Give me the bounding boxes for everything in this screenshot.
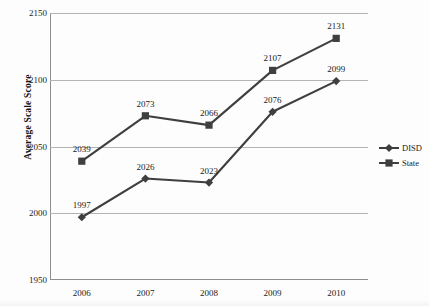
data-point-label: 2107 bbox=[264, 53, 282, 63]
y-tick-label: 2050 bbox=[3, 142, 47, 152]
data-point-label: 2026 bbox=[136, 162, 154, 172]
data-point-label: 2023 bbox=[200, 166, 218, 176]
data-point-label: 2039 bbox=[73, 144, 91, 154]
legend-item-disd[interactable]: DISD bbox=[378, 140, 422, 155]
y-tick-label: 2100 bbox=[3, 75, 47, 85]
x-tick-label: 2010 bbox=[306, 288, 366, 298]
data-point-label: 2131 bbox=[327, 21, 345, 31]
data-point-marker bbox=[333, 35, 340, 42]
y-axis-tick-labels: 21502100205020001950 bbox=[0, 0, 47, 306]
data-point-label: 1997 bbox=[73, 200, 91, 210]
data-point-marker bbox=[205, 122, 212, 129]
legend-label: State bbox=[402, 158, 419, 168]
data-point-label: 2099 bbox=[327, 64, 345, 74]
y-tick-label: 2150 bbox=[3, 8, 47, 18]
series-lines bbox=[50, 13, 368, 280]
chart-legend: DISDState bbox=[378, 140, 422, 170]
series-line-disd bbox=[82, 81, 336, 217]
data-point-marker bbox=[142, 112, 149, 119]
legend-label: DISD bbox=[402, 143, 422, 153]
x-tick-label: 2009 bbox=[243, 288, 303, 298]
legend-item-state[interactable]: State bbox=[378, 155, 422, 170]
y-tick-label: 1950 bbox=[3, 275, 47, 285]
data-point-label: 2076 bbox=[264, 95, 282, 105]
data-point-marker bbox=[78, 158, 85, 165]
x-tick-label: 2007 bbox=[115, 288, 175, 298]
data-point-marker bbox=[269, 67, 276, 74]
plot-area: 1997202620232076209920392073206621072131 bbox=[50, 13, 368, 280]
x-tick-label: 2006 bbox=[52, 288, 112, 298]
legend-swatch-diamond-icon bbox=[378, 143, 400, 153]
data-point-label: 2066 bbox=[200, 108, 218, 118]
x-tick-label: 2008 bbox=[179, 288, 239, 298]
data-point-marker bbox=[332, 77, 340, 85]
chart-figure: Average Scale Score 21502100205020001950… bbox=[0, 0, 429, 306]
x-axis-tick-labels: 20062007200820092010 bbox=[0, 288, 429, 306]
y-tick-label: 2000 bbox=[3, 208, 47, 218]
data-point-label: 2073 bbox=[136, 99, 154, 109]
legend-swatch-square-icon bbox=[378, 158, 400, 168]
